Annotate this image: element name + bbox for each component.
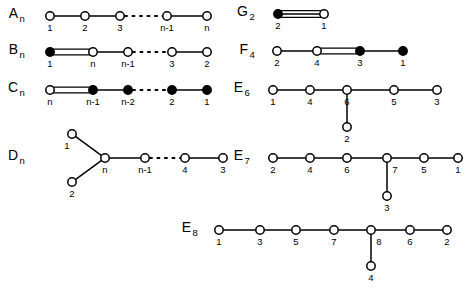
node-open[interactable]	[367, 262, 375, 270]
node-open[interactable]	[367, 226, 375, 234]
node-open[interactable]	[269, 86, 277, 94]
node-open[interactable]	[81, 12, 89, 20]
node-open[interactable]	[46, 12, 54, 20]
node-circle[interactable]	[406, 226, 414, 234]
node-circle[interactable]	[443, 226, 451, 234]
node-filled[interactable]	[89, 86, 97, 94]
node-circle[interactable]	[292, 226, 300, 234]
node-open[interactable]	[256, 226, 264, 234]
node-circle[interactable]	[215, 226, 223, 234]
node-circle[interactable]	[433, 86, 441, 94]
node-circle[interactable]	[383, 192, 391, 200]
node-open[interactable]	[116, 12, 124, 20]
node-open[interactable]	[433, 86, 441, 94]
node-circle[interactable]	[269, 154, 277, 162]
node-open[interactable]	[203, 12, 211, 20]
node-filled[interactable]	[124, 86, 132, 94]
node-circle[interactable]	[46, 12, 54, 20]
node-open[interactable]	[68, 130, 76, 138]
node-label: 2	[270, 164, 275, 175]
node-circle[interactable]	[306, 154, 314, 162]
node-open[interactable]	[343, 123, 351, 131]
node-open[interactable]	[89, 48, 97, 56]
node-circle[interactable]	[124, 86, 132, 94]
node-open[interactable]	[101, 154, 109, 162]
node-open[interactable]	[320, 10, 328, 18]
node-open[interactable]	[406, 226, 414, 234]
node-circle[interactable]	[269, 86, 277, 94]
node-open[interactable]	[124, 48, 132, 56]
node-circle[interactable]	[124, 48, 132, 56]
node-open[interactable]	[141, 154, 149, 162]
node-label: 1	[455, 164, 460, 175]
node-open[interactable]	[292, 226, 300, 234]
node-open[interactable]	[269, 154, 277, 162]
node-circle[interactable]	[343, 86, 351, 94]
node-circle[interactable]	[273, 47, 281, 55]
node-circle[interactable]	[68, 130, 76, 138]
node-filled[interactable]	[46, 48, 54, 56]
node-circle[interactable]	[163, 12, 171, 20]
node-open[interactable]	[219, 154, 227, 162]
node-circle[interactable]	[320, 10, 328, 18]
node-open[interactable]	[343, 86, 351, 94]
node-circle[interactable]	[46, 48, 54, 56]
node-circle[interactable]	[256, 226, 264, 234]
node-circle[interactable]	[306, 86, 314, 94]
node-circle[interactable]	[390, 86, 398, 94]
node-open[interactable]	[420, 154, 428, 162]
node-open[interactable]	[383, 192, 391, 200]
node-open[interactable]	[68, 178, 76, 186]
node-circle[interactable]	[203, 48, 211, 56]
node-circle[interactable]	[367, 226, 375, 234]
node-circle[interactable]	[141, 154, 149, 162]
node-circle[interactable]	[356, 47, 364, 55]
node-open[interactable]	[306, 154, 314, 162]
node-filled[interactable]	[168, 86, 176, 94]
node-open[interactable]	[383, 154, 391, 162]
node-circle[interactable]	[168, 48, 176, 56]
node-open[interactable]	[306, 86, 314, 94]
node-circle[interactable]	[89, 48, 97, 56]
node-circle[interactable]	[46, 86, 54, 94]
node-circle[interactable]	[383, 154, 391, 162]
node-label: 3	[220, 164, 225, 175]
node-open[interactable]	[46, 86, 54, 94]
node-circle[interactable]	[454, 154, 462, 162]
node-circle[interactable]	[219, 154, 227, 162]
node-open[interactable]	[203, 48, 211, 56]
node-open[interactable]	[215, 226, 223, 234]
node-filled[interactable]	[203, 86, 211, 94]
diagram-name-subscript: 4	[250, 49, 255, 60]
node-circle[interactable]	[116, 12, 124, 20]
node-circle[interactable]	[203, 86, 211, 94]
node-circle[interactable]	[367, 262, 375, 270]
node-circle[interactable]	[89, 86, 97, 94]
node-open[interactable]	[390, 86, 398, 94]
node-open[interactable]	[454, 154, 462, 162]
node-circle[interactable]	[68, 178, 76, 186]
node-open[interactable]	[343, 154, 351, 162]
node-open[interactable]	[443, 226, 451, 234]
node-open[interactable]	[163, 12, 171, 20]
node-circle[interactable]	[420, 154, 428, 162]
node-open[interactable]	[181, 154, 189, 162]
node-circle[interactable]	[399, 47, 407, 55]
node-open[interactable]	[313, 47, 321, 55]
node-open[interactable]	[330, 226, 338, 234]
node-circle[interactable]	[81, 12, 89, 20]
node-open[interactable]	[168, 48, 176, 56]
node-filled[interactable]	[399, 47, 407, 55]
node-circle[interactable]	[274, 10, 282, 18]
node-circle[interactable]	[343, 154, 351, 162]
node-circle[interactable]	[203, 12, 211, 20]
node-circle[interactable]	[313, 47, 321, 55]
node-filled[interactable]	[274, 10, 282, 18]
node-circle[interactable]	[168, 86, 176, 94]
node-circle[interactable]	[101, 154, 109, 162]
node-open[interactable]	[273, 47, 281, 55]
node-circle[interactable]	[330, 226, 338, 234]
node-circle[interactable]	[343, 123, 351, 131]
node-circle[interactable]	[181, 154, 189, 162]
node-filled[interactable]	[356, 47, 364, 55]
